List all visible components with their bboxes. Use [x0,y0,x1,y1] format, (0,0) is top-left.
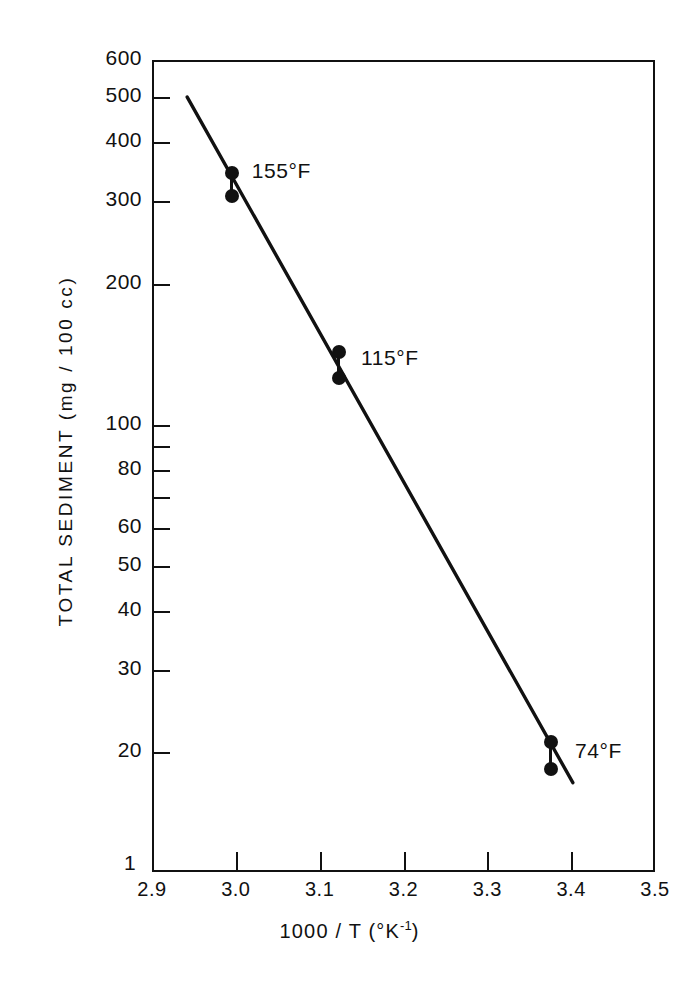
x-axis-title-tail: ) [412,920,420,942]
figure-canvas: 6005004003002001008060504030202.93.03.13… [0,0,699,992]
y-axis-title: TOTAL SEDIMENT (mg / 100 cc) [55,171,77,731]
x-axis-title-main: 1000 / T (°K [279,920,400,942]
x-axis-title-exponent: -1 [400,918,412,933]
fit-line [187,97,573,783]
plot-drawing-area [0,0,699,992]
x-axis-title: 1000 / T (°K-1) [0,918,699,943]
